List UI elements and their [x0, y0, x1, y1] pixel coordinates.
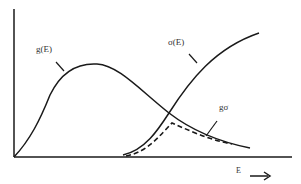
diagram-canvas [0, 0, 301, 184]
sigma-label: σ(E) [168, 38, 184, 47]
gsigma-label: gσ [219, 103, 228, 112]
sigma-curve [123, 33, 259, 155]
x-axis-label: E [236, 167, 241, 175]
gsigma-leader [206, 121, 217, 136]
g-label: g(E) [36, 45, 52, 54]
g-curve [14, 64, 250, 157]
sigma-leader [189, 54, 197, 63]
g-leader [56, 62, 64, 71]
gsigma-curve [126, 123, 232, 156]
